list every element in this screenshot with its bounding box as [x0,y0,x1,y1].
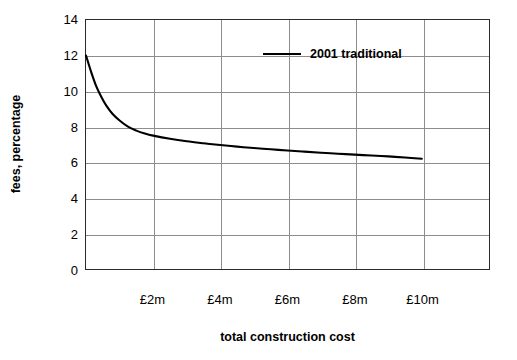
y-axis-tick-label: 10 [18,85,78,98]
fees-vs-construction-cost-chart: 14121086420 fees, percentage 2001 tradit… [0,0,517,360]
legend-label: 2001 traditional [310,47,402,61]
legend: 2001 traditional [263,45,402,63]
series-line-2001-traditional [86,56,422,159]
y-axis-tick-label: 0 [18,264,78,277]
y-axis-tick-label: 14 [18,13,78,26]
x-axis-tick-label: £4m [185,292,255,307]
x-axis-tick-label: £8m [320,292,390,307]
x-axis-tick-label: £6m [253,292,323,307]
y-axis-tick-label: 4 [18,192,78,205]
y-axis-tick-label: 12 [18,49,78,62]
y-axis-tick-label: 6 [18,156,78,169]
y-axis-tick-label: 2 [18,228,78,241]
legend-line-swatch [263,53,301,55]
x-axis-tick-label: £2m [118,292,188,307]
x-axis-title: total construction cost [85,330,490,344]
x-axis-tick-labels: £2m£4m£6m£8m£10m [85,292,490,312]
y-axis-title: fees, percentage [9,84,23,204]
x-axis-tick-label: £10m [388,292,458,307]
y-axis-tick-label: 8 [18,121,78,134]
